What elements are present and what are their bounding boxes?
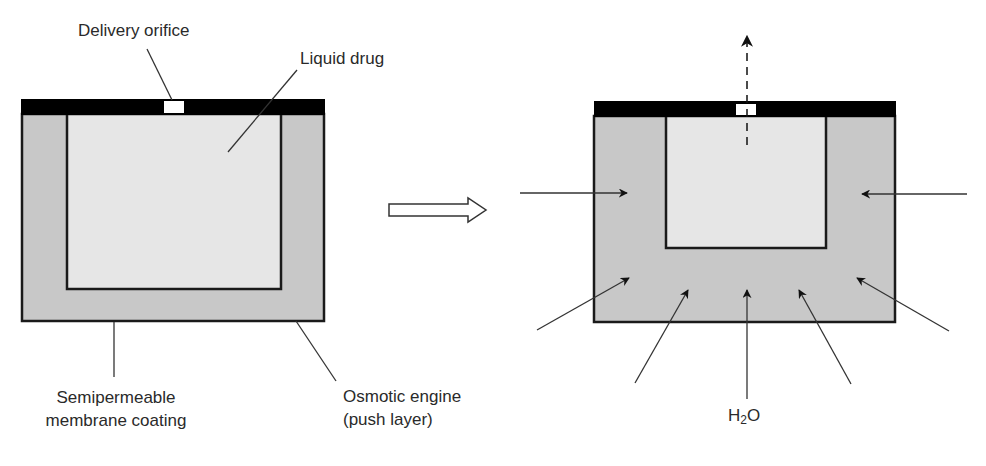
label-delivery-orifice: Delivery orifice	[78, 20, 189, 41]
leader-osmotic-engine	[296, 321, 336, 381]
left-delivery-orifice	[164, 101, 184, 113]
label-water: H2O	[728, 406, 760, 427]
leader-delivery-orifice	[147, 49, 172, 100]
label-membrane-line1: Semipermeable	[36, 387, 196, 408]
label-membrane-line2: membrane coating	[36, 410, 196, 431]
label-osmotic-engine-line1: Osmotic engine	[343, 386, 461, 407]
right-delivery-orifice	[736, 104, 756, 115]
left-device	[21, 49, 336, 381]
hollow-right-arrow-icon	[389, 198, 486, 222]
right-device	[520, 36, 967, 399]
osmotic-pump-diagram: Delivery orifice Liquid drug Semipermeab…	[0, 0, 986, 466]
label-liquid-drug: Liquid drug	[300, 48, 384, 69]
right-drug-reservoir	[666, 116, 826, 248]
water-label-h: H	[728, 406, 740, 425]
left-drug-reservoir	[67, 114, 281, 289]
water-label-subscript: 2	[740, 413, 747, 427]
label-osmotic-engine-line2: (push layer)	[343, 409, 433, 430]
water-label-o: O	[747, 406, 760, 425]
